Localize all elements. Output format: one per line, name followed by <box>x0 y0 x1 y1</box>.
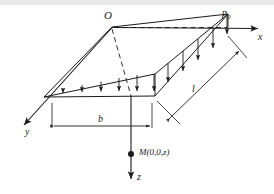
load-max-subscript: 0 <box>227 13 231 21</box>
dashed-guide-vertical <box>112 29 131 96</box>
point-M-marker <box>128 151 134 157</box>
load-hypotenuse-right <box>155 14 228 74</box>
axis-y-line <box>24 28 112 126</box>
loaded-rectangle-outline <box>44 14 228 97</box>
load-profile-right-edge <box>155 14 228 74</box>
plate-edge-left <box>44 27 112 97</box>
dimension-b-label: b <box>98 114 103 124</box>
l-tick-upper <box>228 36 247 58</box>
engineering-diagram <box>0 0 274 194</box>
l-dimension-line <box>170 51 239 118</box>
load-hypotenuse-front <box>44 74 155 97</box>
load-max-label: p0 <box>222 8 231 21</box>
load-profile-front-edge <box>44 74 155 97</box>
point-M-label: M(0,0,z) <box>139 148 170 157</box>
plate-edge-front <box>44 96 155 97</box>
origin-label: O <box>104 10 112 21</box>
dimension-l-label: l <box>192 84 195 94</box>
dimension-l-group <box>157 36 247 124</box>
plate-edge-top <box>112 14 228 27</box>
axis-y-label: y <box>25 127 29 137</box>
axis-x-label: x <box>258 32 262 42</box>
axis-z-label: z <box>137 172 141 182</box>
l-tick-lower <box>157 101 180 124</box>
